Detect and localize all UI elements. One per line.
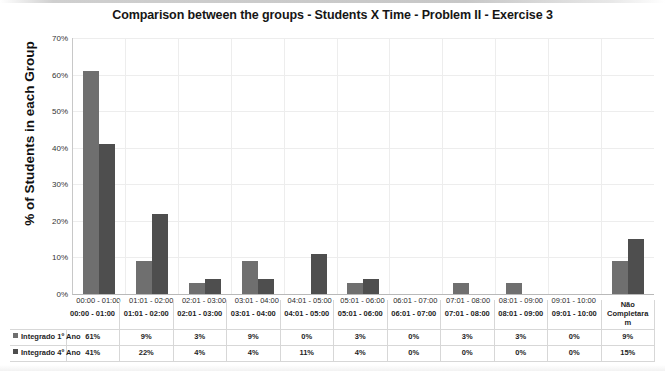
legend-label: Integrado 4º Ano — [21, 348, 81, 357]
data-table-head: 00:00 - 01:0001:01 - 02:0002:01 - 03:000… — [10, 300, 655, 329]
data-table-body: Integrado 1º Ano61%9%3%9%0%3%0%3%3%0%9%I… — [10, 329, 655, 361]
legend-label: Integrado 1º Ano — [21, 332, 81, 341]
y-tick-label: 10% — [36, 253, 68, 262]
plot-area — [72, 38, 654, 295]
table-column-header: 00:00 - 01:00 — [66, 300, 120, 329]
bar[interactable] — [136, 261, 152, 294]
table-cell-value: 0% — [387, 329, 441, 345]
y-tick-label: 0% — [36, 290, 68, 299]
bar[interactable] — [311, 254, 327, 294]
y-tick-label: 30% — [36, 180, 68, 189]
table-cell-value: 0% — [280, 329, 334, 345]
table-row: Integrado 4º Ano41%22%4%4%11%4%0%0%0%0%1… — [10, 345, 655, 361]
table-cell-value: 0% — [548, 345, 602, 361]
bar[interactable] — [242, 261, 258, 294]
bar-group — [602, 38, 654, 294]
table-cell-value: 15% — [601, 345, 655, 361]
bar[interactable] — [152, 214, 168, 294]
bar-group — [390, 38, 443, 294]
bar-group — [232, 38, 285, 294]
table-cell-value: 11% — [280, 345, 334, 361]
legend-swatch-icon — [13, 333, 18, 338]
table-cell-value: 4% — [173, 345, 227, 361]
table-cell-value: 0% — [548, 329, 602, 345]
legend-swatch-icon — [13, 349, 18, 354]
bar[interactable] — [99, 144, 115, 294]
table-cell-value: 3% — [334, 329, 388, 345]
table-cell-value: 4% — [334, 345, 388, 361]
data-table: 00:00 - 01:0001:01 - 02:0002:01 - 03:000… — [10, 300, 655, 362]
chart-title: Comparison between the groups - Students… — [0, 8, 665, 22]
table-cell-value: 22% — [120, 345, 174, 361]
bar[interactable] — [347, 283, 363, 294]
bar-group — [285, 38, 338, 294]
table-column-header: 01:01 - 02:00 — [120, 300, 174, 329]
bar[interactable] — [205, 279, 221, 294]
y-tick-label: 20% — [36, 216, 68, 225]
data-table-header-row: 00:00 - 01:0001:01 - 02:0002:01 - 03:000… — [10, 300, 655, 329]
table-cell-value: 4% — [227, 345, 281, 361]
table-cell-value: 0% — [494, 345, 548, 361]
table-cell-value: 0% — [441, 345, 495, 361]
scan-artifact-top — [0, 0, 665, 3]
bar-group — [549, 38, 602, 294]
table-column-header: 09:01 - 10:00 — [548, 300, 602, 329]
table-cell-value: 9% — [227, 329, 281, 345]
table-cell-value: 3% — [494, 329, 548, 345]
y-tick-label: 50% — [36, 107, 68, 116]
bar[interactable] — [612, 261, 628, 294]
legend-item-2[interactable]: Integrado 4º Ano — [10, 345, 66, 361]
table-column-header: 05:01 - 06:00 — [334, 300, 388, 329]
scan-artifact-bottom — [0, 365, 665, 371]
table-column-header: NãoCompletaram — [601, 300, 655, 329]
y-axis-title: % of Students in each Group — [22, 19, 37, 249]
y-axis-ticks: 70%60%50%40%30%20%10%0% — [36, 30, 68, 294]
bar[interactable] — [258, 279, 274, 294]
bar-group — [338, 38, 391, 294]
y-tick-label: 60% — [36, 70, 68, 79]
bar[interactable] — [506, 283, 522, 294]
bar-group — [496, 38, 549, 294]
bars-layer — [73, 38, 654, 294]
table-column-header: 08:01 - 09:00 — [494, 300, 548, 329]
table-column-header: 03:01 - 04:00 — [227, 300, 281, 329]
bar[interactable] — [83, 71, 99, 294]
table-column-header: 06:01 - 07:00 — [387, 300, 441, 329]
table-cell-value: 3% — [173, 329, 227, 345]
table-column-header: 04:01 - 05:00 — [280, 300, 334, 329]
table-cell-value: 9% — [120, 329, 174, 345]
bar[interactable] — [453, 283, 469, 294]
bar[interactable] — [628, 239, 644, 294]
bar[interactable] — [189, 283, 205, 294]
bar-group — [126, 38, 179, 294]
bar-group — [443, 38, 496, 294]
table-row: Integrado 1º Ano61%9%3%9%0%3%0%3%3%0%9% — [10, 329, 655, 345]
table-corner-cell — [10, 300, 66, 329]
bar[interactable] — [363, 279, 379, 294]
bar-group — [179, 38, 232, 294]
table-cell-value: 3% — [441, 329, 495, 345]
legend-item-1[interactable]: Integrado 1º Ano — [10, 329, 66, 345]
plot-wrapper: % of Students in each Group 70%60%50%40%… — [0, 30, 665, 305]
table-column-header: 07:01 - 08:00 — [441, 300, 495, 329]
table-cell-value: 9% — [601, 329, 655, 345]
table-cell-value: 0% — [387, 345, 441, 361]
y-tick-label: 70% — [36, 34, 68, 43]
bar-group — [73, 38, 126, 294]
y-tick-label: 40% — [36, 143, 68, 152]
table-column-header: 02:01 - 03:00 — [173, 300, 227, 329]
